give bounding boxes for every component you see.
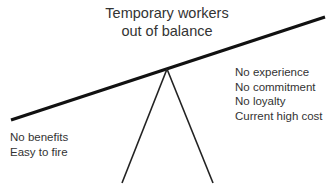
- right-item: No loyalty: [235, 94, 323, 109]
- title-line-1: Temporary workers: [100, 4, 234, 22]
- title-line-2: out of balance: [100, 22, 234, 40]
- left-item: No benefits: [10, 130, 68, 145]
- fulcrum-left-leg: [122, 69, 167, 183]
- fulcrum-right-leg: [167, 69, 213, 183]
- right-item: Current high cost: [235, 109, 323, 124]
- left-item: Easy to fire: [10, 145, 68, 160]
- right-item: No commitment: [235, 80, 323, 95]
- right-item: No experience: [235, 65, 323, 80]
- diagram-title: Temporary workers out of balance: [100, 4, 234, 40]
- right-side-list: No experience No commitment No loyalty C…: [235, 65, 323, 123]
- left-side-list: No benefits Easy to fire: [10, 130, 68, 159]
